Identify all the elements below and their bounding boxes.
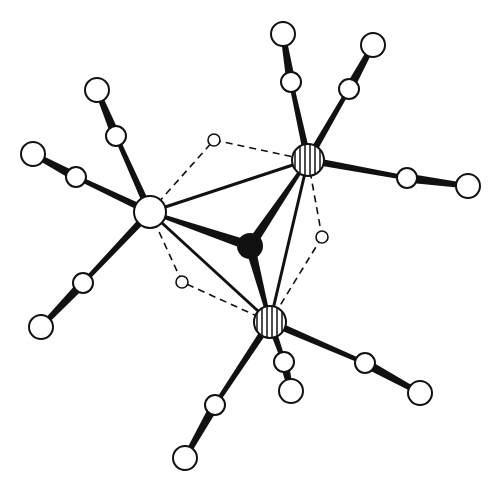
oxygen-atom-icon	[456, 174, 480, 198]
central-atom-icon	[237, 233, 263, 259]
hydride-atom-icon	[316, 231, 328, 243]
metal-atom-icon	[292, 144, 324, 176]
carbon-atom-icon	[281, 72, 301, 92]
carbon-atom-icon	[106, 126, 126, 146]
oxygen-atom-icon	[279, 379, 303, 403]
carbon-atom-icon	[274, 352, 294, 372]
carbon-atom-icon	[205, 395, 225, 415]
metal-metal-bonds	[150, 159, 310, 322]
carbon-atom-icon	[397, 168, 417, 188]
oxygen-atom-icon	[85, 78, 109, 102]
carbon-atom-icon	[73, 273, 93, 293]
oxygen-atom-icon	[173, 446, 197, 470]
carbon-atom-icon	[339, 79, 359, 99]
carbon-atom-icon	[355, 353, 375, 373]
oxygen-atom-icon	[408, 381, 432, 405]
oxygen-atom-icon	[21, 142, 45, 166]
oxygen-atom-icon	[271, 22, 295, 46]
metal-atom-icon	[134, 196, 166, 228]
metal-metal-bond	[150, 160, 308, 212]
hydride-atom-icon	[208, 134, 220, 146]
atoms	[21, 22, 480, 470]
hydride-atom-icon	[176, 276, 188, 288]
carbon-atom-icon	[66, 167, 86, 187]
oxygen-atom-icon	[361, 33, 385, 57]
molecular-structure-diagram	[0, 0, 495, 487]
oxygen-atom-icon	[29, 315, 53, 339]
metal-atom-icon	[254, 306, 286, 338]
